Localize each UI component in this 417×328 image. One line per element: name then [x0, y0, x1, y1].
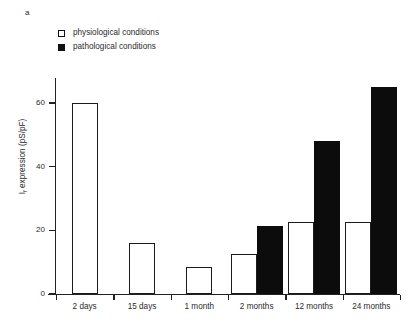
bar-pathological	[257, 226, 283, 294]
y-axis-tick-label: 40	[5, 163, 45, 171]
y-axis-title-main: expression (pS/pF)	[18, 119, 27, 188]
x-axis-tick	[285, 295, 286, 300]
x-axis-tick	[343, 295, 344, 300]
x-axis-tick-label: 15 days	[113, 302, 170, 312]
x-axis-tick-label: 2 months	[228, 302, 285, 312]
x-axis-line	[48, 294, 400, 295]
bar-physiological	[72, 103, 98, 294]
x-axis-tick	[113, 295, 114, 300]
y-axis-tick-label: 0	[5, 290, 45, 298]
bar-physiological	[345, 222, 371, 294]
bar-physiological	[129, 243, 155, 294]
y-axis-tick	[49, 166, 55, 167]
x-axis-tick-label: 1 month	[171, 302, 228, 312]
x-axis-tick-label: 24 months	[343, 302, 400, 312]
figure-panel: a physiological conditions pathological …	[0, 0, 417, 328]
bar-physiological	[186, 267, 212, 294]
bar-physiological	[231, 254, 257, 294]
y-axis-title: If expression (pS/pF)	[18, 97, 27, 217]
x-axis-tick-label: 2 days	[56, 302, 113, 312]
x-axis-tick	[56, 295, 57, 300]
y-axis-tick	[49, 102, 55, 103]
y-axis-tick	[49, 293, 55, 294]
bar-pathological	[371, 87, 397, 294]
x-axis-tick	[171, 295, 172, 300]
y-axis-tick-label: 60	[5, 99, 45, 107]
y-axis-tick-label: 20	[5, 226, 45, 234]
x-axis-tick	[400, 295, 401, 300]
bar-physiological	[288, 222, 314, 294]
y-axis-title-symbol: I	[18, 192, 27, 194]
x-axis-tick	[228, 295, 229, 300]
y-axis-tick	[49, 230, 55, 231]
x-axis-tick-label: 12 months	[285, 302, 342, 312]
bar-pathological	[314, 141, 340, 294]
y-axis-line	[55, 78, 56, 295]
bar-chart-plot-area: If expression (pS/pF) 0204060 2 days15 d…	[0, 0, 417, 328]
